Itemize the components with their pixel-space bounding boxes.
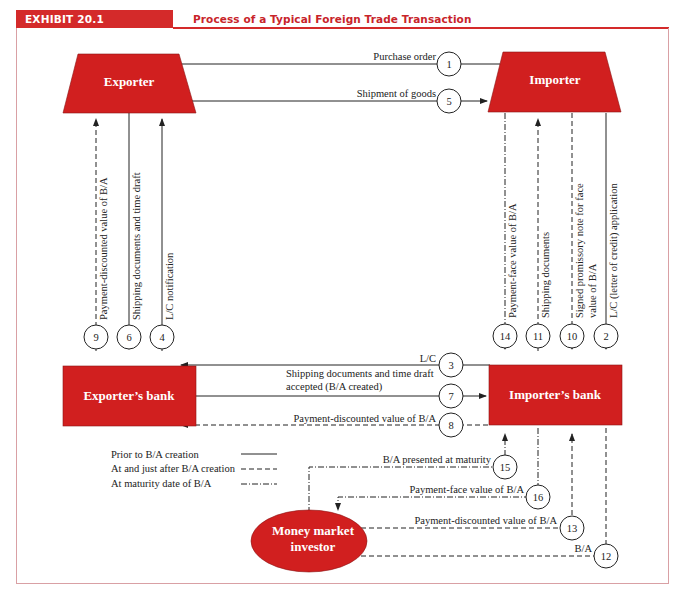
node-importer-label: Importer	[529, 72, 580, 87]
step-number-1: 1	[446, 59, 451, 70]
legend: Prior to B/A creation At and just after …	[111, 449, 277, 489]
legend-label-dashdot: At maturity date of B/A	[111, 478, 212, 489]
step-number-10: 10	[567, 331, 578, 342]
flow-label-1: Purchase order	[373, 51, 436, 62]
step-number-3: 3	[448, 360, 453, 371]
step-number-16: 16	[533, 492, 544, 503]
step-number-13: 13	[567, 523, 578, 534]
node-exporter-label: Exporter	[104, 74, 155, 89]
step-number-15: 15	[500, 462, 511, 473]
step-number-8: 8	[448, 420, 453, 431]
flow-label-16: Payment-face value of B/A	[409, 484, 524, 495]
flow-label-7-line1: Shipping documents and time draft	[286, 368, 434, 379]
flow-label-8: Payment-discounted value of B/A	[293, 413, 436, 424]
node-investor-label-line1: Money market	[272, 523, 355, 538]
flow-step-13	[361, 434, 572, 528]
flow-label-13: Payment-discounted value of B/A	[414, 515, 557, 526]
step-number-7: 7	[448, 391, 453, 402]
step-number-9: 9	[93, 332, 98, 343]
flow-label-5: Shipment of goods	[357, 88, 436, 99]
flow-label-9: Payment-discounted value of B/A	[98, 177, 109, 320]
flow-label-7-line2: accepted (B/A created)	[286, 381, 383, 393]
trade-process-diagram: Exporter Importer Exporter’s bank Import…	[0, 0, 678, 593]
step-number-4: 4	[159, 332, 165, 343]
flow-step-15	[309, 434, 505, 513]
node-investor-label-line2: investor	[291, 539, 336, 554]
step-number-12: 12	[601, 551, 612, 562]
step-number-5: 5	[446, 96, 451, 107]
step-number-6: 6	[126, 332, 131, 343]
flow-label-3: L/C	[420, 353, 436, 364]
flow-label-10-line2: value of B/A	[587, 263, 598, 318]
flow-label-10-line1: Signed promissory note for face	[574, 183, 585, 318]
step-number-14: 14	[500, 331, 511, 342]
step-number-2: 2	[603, 331, 608, 342]
flow-label-15: B/A presented at maturity	[383, 454, 492, 465]
flow-label-12: B/A	[574, 543, 592, 554]
flow-label-2: L/C (letter of credit) application	[608, 183, 620, 318]
legend-label-solid: Prior to B/A creation	[111, 449, 200, 460]
node-exporters-bank-label: Exporter’s bank	[83, 388, 175, 403]
node-importers-bank-label: Importer’s bank	[509, 387, 602, 402]
step-number-11: 11	[533, 331, 543, 342]
flow-label-4: L/C notification	[164, 252, 175, 320]
flow-label-14: Payment-face value of B/A	[507, 203, 518, 318]
flow-label-11: Shipping documents	[540, 232, 551, 318]
legend-label-dashed: At and just after B/A creation	[111, 463, 236, 474]
flow-label-6: Shipping documents and time draft	[131, 172, 142, 320]
